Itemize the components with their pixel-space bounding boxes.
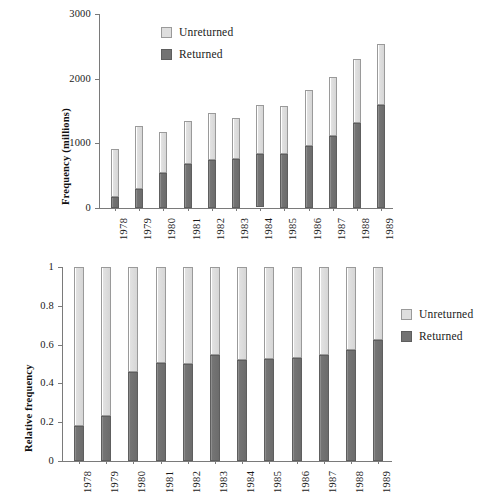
bar-segment-unreturned [346, 267, 356, 350]
bar-segment-returned [128, 372, 138, 461]
y-tick-label: 0.4 [0, 378, 54, 388]
stacked-bar [319, 267, 329, 461]
x-tick-mark [106, 461, 107, 464]
frequency-chart-y-axis-title: Frequency (millions) [60, 108, 71, 205]
x-tick-label: 1979 [110, 471, 120, 493]
frequency-chart-panel: Frequency (millions) 0100020003000 19781… [0, 0, 483, 250]
x-tick-mark [284, 208, 285, 211]
x-tick-label: 1989 [382, 471, 392, 493]
stacked-bar [329, 77, 337, 208]
x-tick-mark [378, 461, 379, 464]
bar-segment-returned [183, 364, 193, 461]
stacked-bar [377, 44, 385, 208]
bar-segment-unreturned [292, 267, 302, 358]
relative-frequency-chart-x-axis [62, 461, 392, 462]
bar-segment-returned [305, 146, 313, 208]
stacked-bar [292, 267, 302, 461]
y-tick-mark [95, 208, 99, 209]
x-tick-label: 1986 [301, 471, 311, 493]
x-tick-label: 1982 [216, 218, 226, 240]
frequency-chart-x-axis [99, 208, 393, 209]
bar-segment-unreturned [208, 113, 216, 160]
bar-segment-unreturned [101, 267, 111, 416]
legend-label-unreturned: Unreturned [179, 26, 233, 38]
x-tick-mark [161, 461, 162, 464]
x-tick-label: 1984 [246, 471, 256, 493]
bar-segment-returned [208, 160, 216, 208]
y-tick-mark [95, 143, 99, 144]
stacked-bar [237, 267, 247, 461]
x-tick-mark [212, 208, 213, 211]
stacked-bar [280, 106, 288, 208]
y-tick-label: 3000 [0, 9, 91, 19]
legend-swatch-returned-icon [401, 331, 412, 342]
x-tick-label: 1980 [137, 471, 147, 493]
x-tick-label: 1981 [165, 471, 175, 493]
bar-segment-unreturned [159, 132, 167, 173]
x-tick-mark [324, 461, 325, 464]
stacked-bar [256, 105, 264, 208]
stacked-bar [184, 121, 192, 208]
bar-segment-returned [346, 350, 356, 461]
legend-item-unreturned: Unreturned [161, 26, 233, 38]
bar-segment-returned [210, 355, 220, 461]
y-tick-mark [58, 383, 62, 384]
bar-segment-unreturned [280, 106, 288, 154]
x-tick-mark [381, 208, 382, 211]
bar-segment-unreturned [135, 126, 143, 189]
bar-segment-returned [329, 136, 337, 208]
x-tick-mark [188, 461, 189, 464]
bar-segment-returned [377, 105, 385, 208]
x-tick-label: 1985 [273, 471, 283, 493]
legend-swatch-returned-icon [161, 49, 172, 60]
x-tick-label: 1981 [192, 218, 202, 240]
bar-segment-unreturned [305, 90, 313, 146]
x-tick-label: 1978 [83, 471, 93, 493]
x-tick-label: 1983 [240, 218, 250, 240]
bar-segment-returned [184, 164, 192, 208]
bar-segment-unreturned [210, 267, 220, 355]
y-tick-mark [58, 422, 62, 423]
stacked-bar [159, 132, 167, 208]
y-tick-mark [58, 461, 62, 462]
stacked-bar [101, 267, 111, 461]
stacked-bar [128, 267, 138, 461]
x-tick-mark [188, 208, 189, 211]
relative-frequency-chart-panel: Relative frequency 00.20.40.60.81 197819… [0, 250, 483, 495]
bar-segment-returned [353, 123, 361, 208]
x-tick-mark [133, 461, 134, 464]
bar-segment-unreturned [373, 267, 383, 340]
stacked-bar [156, 267, 166, 461]
x-tick-label: 1987 [337, 218, 347, 240]
x-tick-label: 1983 [219, 471, 229, 493]
bar-segment-returned [111, 197, 119, 208]
x-tick-mark [351, 461, 352, 464]
bar-segment-unreturned [156, 267, 166, 363]
bar-segment-unreturned [264, 267, 274, 359]
y-tick-mark [95, 79, 99, 80]
bar-segment-returned [292, 358, 302, 461]
stacked-bar [111, 149, 119, 208]
x-tick-mark [236, 208, 237, 211]
x-tick-label: 1988 [355, 471, 365, 493]
bar-segment-returned [159, 173, 167, 208]
bar-segment-unreturned [353, 59, 361, 123]
legend-label-returned: Returned [179, 48, 223, 60]
frequency-chart-legend: Unreturned Returned [161, 26, 301, 71]
bar-segment-returned [256, 154, 264, 207]
stacked-bar [232, 118, 240, 208]
x-tick-label: 1982 [192, 471, 202, 493]
bar-segment-returned [232, 159, 240, 208]
bar-segment-returned [74, 426, 84, 461]
y-tick-mark [95, 14, 99, 15]
bar-segment-unreturned [319, 267, 329, 355]
x-tick-mark [333, 208, 334, 211]
x-tick-mark [309, 208, 310, 211]
y-tick-mark [58, 345, 62, 346]
bar-segment-unreturned [183, 267, 193, 364]
stacked-bar [346, 267, 356, 461]
legend-item-returned: Returned [161, 48, 223, 60]
legend-swatch-unreturned-icon [401, 309, 412, 320]
bar-segment-returned [373, 340, 383, 461]
y-tick-label: 1 [0, 262, 54, 272]
